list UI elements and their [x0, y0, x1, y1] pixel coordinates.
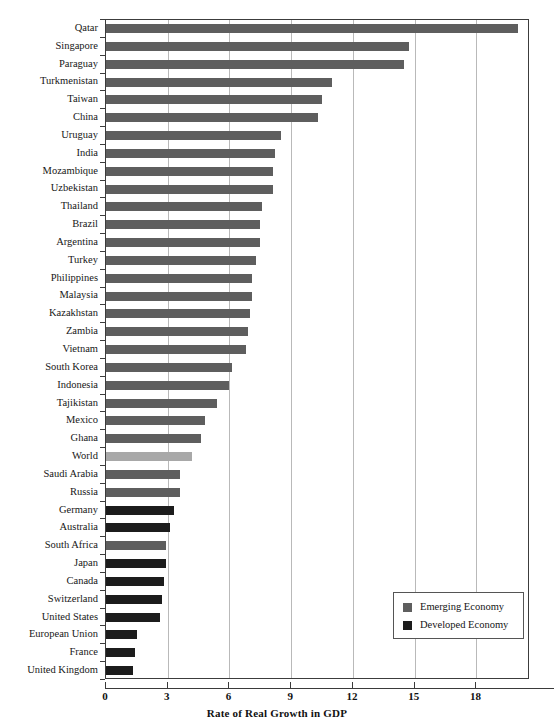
bar	[106, 488, 180, 497]
y-axis-label-south-korea: South Korea	[0, 361, 98, 372]
y-axis-tick	[100, 90, 105, 91]
x-axis-line	[105, 688, 554, 689]
y-axis-tick	[100, 411, 105, 412]
bar	[106, 506, 174, 515]
y-axis-tick	[100, 73, 105, 74]
x-axis-tick-12	[352, 682, 353, 689]
bar	[106, 292, 252, 301]
bar	[106, 42, 409, 51]
bar-row	[106, 56, 528, 73]
bar-row	[106, 234, 528, 251]
y-axis-label-germany: Germany	[0, 504, 98, 515]
y-axis-label-indonesia: Indonesia	[0, 379, 98, 390]
bar-row	[106, 377, 528, 394]
bar-row	[106, 448, 528, 465]
y-axis-tick	[100, 608, 105, 609]
y-axis-tick	[100, 215, 105, 216]
y-axis-label-turkey: Turkey	[0, 254, 98, 265]
bar-row	[106, 573, 528, 590]
x-axis-tick-label-18: 18	[470, 690, 481, 703]
y-axis-tick	[100, 625, 105, 626]
x-axis-tick-9	[290, 682, 291, 689]
bar-row	[106, 163, 528, 180]
bar	[106, 149, 275, 158]
bar-row	[106, 127, 528, 144]
bar-row	[106, 430, 528, 447]
y-axis-label-japan: Japan	[0, 557, 98, 568]
bar	[106, 595, 162, 604]
bar	[106, 363, 232, 372]
bar-row	[106, 466, 528, 483]
bar	[106, 577, 164, 586]
bar	[106, 666, 133, 675]
bar-row	[106, 181, 528, 198]
y-axis-tick	[100, 376, 105, 377]
legend-swatch-emerging-icon	[403, 603, 412, 612]
y-axis-label-saudi-arabia: Saudi Arabia	[0, 468, 98, 479]
bar-row	[106, 359, 528, 376]
bar	[106, 327, 248, 336]
bar	[106, 399, 217, 408]
y-axis-tick	[100, 251, 105, 252]
x-axis-tick-3	[167, 682, 168, 689]
y-axis-label-mozambique: Mozambique	[0, 165, 98, 176]
bar-row	[106, 270, 528, 287]
bar	[106, 256, 256, 265]
y-axis-tick	[100, 501, 105, 502]
bar	[106, 202, 262, 211]
y-axis-label-united-states: United States	[0, 611, 98, 622]
bar	[106, 613, 160, 622]
y-axis-tick	[100, 108, 105, 109]
y-axis-label-malaysia: Malaysia	[0, 289, 98, 300]
y-axis-label-canada: Canada	[0, 575, 98, 586]
y-axis-tick	[100, 661, 105, 662]
bar-row	[106, 484, 528, 501]
bar-row	[106, 38, 528, 55]
y-axis-tick	[100, 340, 105, 341]
bar-row	[106, 216, 528, 233]
bar	[106, 60, 404, 69]
bar	[106, 220, 260, 229]
y-axis-tick	[100, 126, 105, 127]
bar-row	[106, 305, 528, 322]
bar-row	[106, 341, 528, 358]
x-axis-tick-label-15: 15	[408, 690, 419, 703]
bar-row	[106, 555, 528, 572]
y-axis-tick	[100, 322, 105, 323]
bar	[106, 24, 518, 33]
clipped-top-caption	[0, 0, 554, 8]
y-axis-label-mexico: Mexico	[0, 414, 98, 425]
bar	[106, 113, 318, 122]
x-axis-tick-0	[105, 682, 106, 689]
plot-area	[105, 19, 529, 679]
x-axis-tick-label-0: 0	[102, 690, 108, 703]
y-axis-tick	[100, 37, 105, 38]
x-axis-tick-15	[414, 682, 415, 689]
bar-row	[106, 323, 528, 340]
bar	[106, 345, 246, 354]
bar	[106, 541, 166, 550]
y-axis-tick	[100, 536, 105, 537]
bar-row	[106, 109, 528, 126]
bar-row	[106, 198, 528, 215]
bar	[106, 434, 201, 443]
bar-row	[106, 537, 528, 554]
y-axis-tick	[100, 554, 105, 555]
y-axis-tick	[100, 55, 105, 56]
y-axis-label-uruguay: Uruguay	[0, 129, 98, 140]
legend: Emerging Economy Developed Economy	[393, 592, 524, 639]
y-axis-tick	[100, 144, 105, 145]
y-axis-label-vietnam: Vietnam	[0, 343, 98, 354]
y-axis-tick	[100, 19, 105, 20]
bar	[106, 185, 273, 194]
bar-row	[106, 644, 528, 661]
bar	[106, 238, 260, 247]
bar-row	[106, 252, 528, 269]
y-axis-tick	[100, 518, 105, 519]
bar	[106, 630, 137, 639]
legend-label-developed: Developed Economy	[420, 619, 508, 631]
y-axis-label-kazakhstan: Kazakhstan	[0, 307, 98, 318]
y-axis-tick	[100, 304, 105, 305]
bar-row	[106, 395, 528, 412]
bar	[106, 452, 192, 461]
